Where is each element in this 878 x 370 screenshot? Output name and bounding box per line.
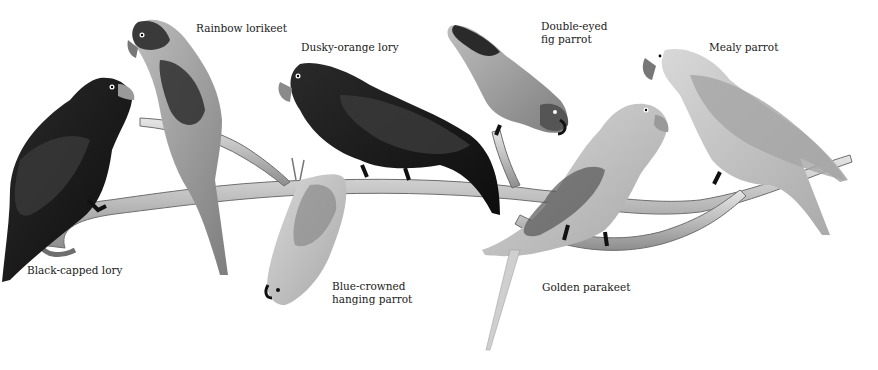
- label-rainbow-lorikeet: Rainbow lorikeet: [196, 22, 287, 35]
- label-mealy-parrot: Mealy parrot: [709, 41, 778, 54]
- label-blue-crowned-hanging-parrot: Blue-crowned hanging parrot: [332, 280, 412, 306]
- label-black-capped-lory: Black-capped lory: [27, 264, 122, 277]
- rainbow-lorikeet-bird: [127, 20, 228, 275]
- illustration-canvas: [0, 0, 878, 370]
- label-dusky-orange-lory: Dusky-orange lory: [301, 41, 399, 54]
- label-golden-parakeet: Golden parakeet: [542, 281, 630, 294]
- label-double-eyed-fig-parrot: Double-eyed fig parrot: [541, 20, 607, 46]
- parrot-illustration: Black-capped lory Rainbow lorikeet Dusky…: [0, 0, 878, 370]
- golden-parakeet-bird: [482, 104, 668, 350]
